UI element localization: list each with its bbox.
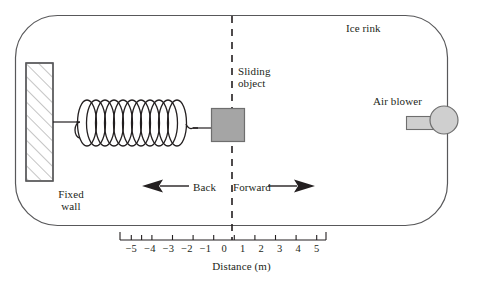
sliding-object-label-line2: object: [238, 77, 271, 89]
axis-ticks: [131, 235, 316, 240]
fixed-wall-label-line1: Fixed: [50, 188, 92, 200]
physics-diagram-figure: Ice rink Sliding object Air blower Fixed…: [0, 0, 483, 287]
axis-title-label: Distance (m): [0, 260, 483, 272]
fixed-wall-label: Fixed wall: [50, 188, 92, 213]
fixed-wall: [26, 63, 53, 181]
sliding-object-label-line1: Sliding: [238, 65, 271, 77]
air-blower-label: Air blower: [373, 95, 422, 107]
air-blower: [407, 106, 459, 134]
sliding-object-label: Sliding object: [238, 65, 271, 90]
ice-rink-label: Ice rink: [346, 22, 381, 34]
back-direction-label: Back: [193, 181, 216, 193]
sliding-object-block: [212, 109, 245, 142]
fixed-wall-label-line2: wall: [50, 200, 92, 212]
axis-tick-label: 5: [306, 243, 328, 254]
forward-arrow-right-icon: [268, 180, 315, 193]
forward-direction-label: Forward: [233, 181, 271, 193]
back-arrow-left-icon: [142, 180, 189, 193]
distance-axis: [120, 232, 326, 240]
air-blower-body: [430, 106, 458, 134]
coil-spring: [75, 100, 198, 146]
